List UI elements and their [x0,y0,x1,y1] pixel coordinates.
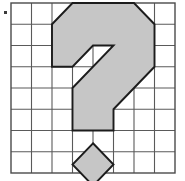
corner-marker-layer [4,11,7,14]
grid-figure-svg [0,0,185,181]
bullet-marker [4,11,7,14]
figure-container [0,0,185,181]
